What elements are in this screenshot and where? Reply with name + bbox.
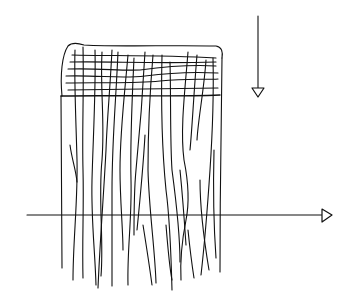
right-edge-strand — [220, 58, 222, 272]
right-arrow-icon — [27, 209, 332, 222]
warp-strands — [70, 47, 216, 290]
left-edge-strand — [61, 96, 62, 268]
fringe-sketch — [0, 0, 345, 293]
down-arrow-icon — [252, 16, 264, 97]
